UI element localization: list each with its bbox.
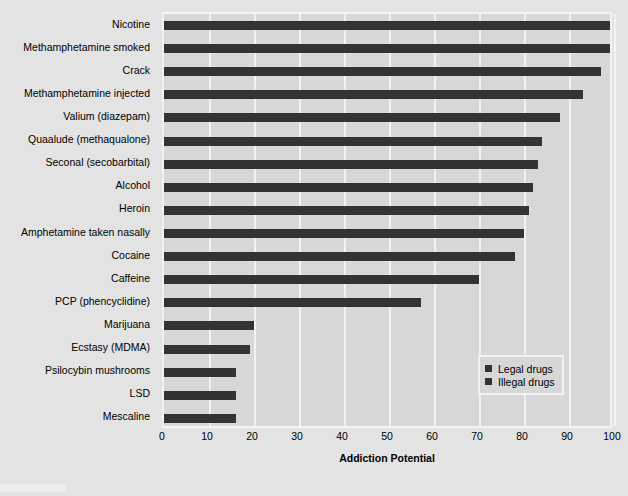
chart-figure: NicotineMethamphetamine smokedCrackMetha… — [0, 0, 628, 496]
y-axis-label: Heroin — [119, 197, 150, 220]
legend-item: Illegal drugs — [485, 375, 555, 388]
bar-row — [164, 176, 610, 199]
x-axis-tick-label: 80 — [516, 430, 528, 442]
bar — [164, 90, 583, 99]
y-axis-label: Alcohol — [116, 174, 150, 197]
y-axis-label: Quaalude (methaqualone) — [28, 128, 150, 151]
bar — [164, 275, 479, 284]
y-axis-label: Ecstasy (MDMA) — [71, 336, 150, 359]
y-axis-label: Marijuana — [104, 312, 150, 335]
x-axis-tick-label: 20 — [246, 430, 258, 442]
x-axis-tick-label: 50 — [381, 430, 393, 442]
bar — [164, 67, 601, 76]
legend-label: Illegal drugs — [498, 376, 555, 388]
bar-row — [164, 245, 610, 268]
bar — [164, 252, 515, 261]
y-axis-label: PCP (phencyclidine) — [55, 289, 150, 312]
y-axis-label: Nicotine — [112, 12, 150, 35]
bar — [164, 368, 236, 377]
y-axis-label: Caffeine — [111, 266, 150, 289]
bar — [164, 414, 236, 423]
y-axis-label: Methamphetamine smoked — [23, 35, 150, 58]
legend-swatch-icon — [485, 365, 492, 372]
bar — [164, 113, 560, 122]
bar — [164, 229, 524, 238]
bar-row — [164, 130, 610, 153]
gridline-100 — [614, 14, 616, 426]
legend-swatch-icon — [485, 378, 492, 385]
bar — [164, 160, 538, 169]
y-axis-label: Amphetamine taken nasally — [21, 220, 150, 243]
bar — [164, 44, 610, 53]
bar-row — [164, 14, 610, 37]
bottom-strip — [0, 484, 66, 492]
bar-row — [164, 83, 610, 106]
x-axis-tick-label: 30 — [291, 430, 303, 442]
x-axis-tick-label: 60 — [426, 430, 438, 442]
x-axis-tick-label: 10 — [201, 430, 213, 442]
bar-row — [164, 407, 610, 430]
x-axis-title: Addiction Potential — [162, 452, 612, 464]
x-axis-tick-label: 40 — [336, 430, 348, 442]
y-axis-label: Seconal (secobarbital) — [46, 151, 150, 174]
bar-row — [164, 106, 610, 129]
bar — [164, 321, 254, 330]
x-axis-tick-labels: 0102030405060708090100 — [162, 430, 612, 446]
x-axis-tick-label: 90 — [561, 430, 573, 442]
bar — [164, 298, 421, 307]
legend-item: Legal drugs — [485, 362, 555, 375]
bar-row — [164, 60, 610, 83]
y-axis-label: Valium (diazepam) — [63, 104, 150, 127]
x-axis-tick-label: 70 — [471, 430, 483, 442]
y-axis-label: LSD — [130, 382, 150, 405]
y-axis-label: Mescaline — [103, 405, 150, 428]
y-axis-labels: NicotineMethamphetamine smokedCrackMetha… — [0, 12, 156, 428]
x-axis-tick-label: 100 — [603, 430, 621, 442]
y-axis-label: Psilocybin mushrooms — [45, 359, 150, 382]
bar-row — [164, 222, 610, 245]
bar-row — [164, 37, 610, 60]
legend-label: Legal drugs — [498, 363, 553, 375]
bar — [164, 206, 529, 215]
bar — [164, 137, 542, 146]
bar — [164, 21, 610, 30]
bar-row — [164, 199, 610, 222]
bar-row — [164, 314, 610, 337]
bar-row — [164, 153, 610, 176]
y-axis-label: Crack — [123, 58, 150, 81]
bar — [164, 345, 250, 354]
x-axis-tick-label: 0 — [159, 430, 165, 442]
bar — [164, 183, 533, 192]
y-axis-label: Cocaine — [111, 243, 150, 266]
bar-row — [164, 291, 610, 314]
bar-row — [164, 268, 610, 291]
y-axis-label: Methamphetamine injected — [24, 81, 150, 104]
legend: Legal drugsIllegal drugs — [478, 355, 564, 395]
bar — [164, 391, 236, 400]
